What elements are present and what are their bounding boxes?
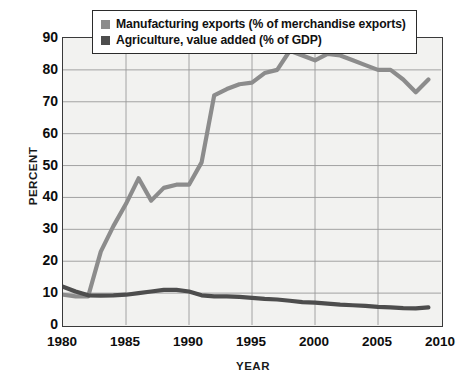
y-tick-label: 20 <box>24 252 58 268</box>
x-tick-label: 1990 <box>158 334 218 349</box>
legend-swatch-icon <box>101 36 110 45</box>
legend-label: Manufacturing exports (% of merchandise … <box>116 17 406 31</box>
chart-figure: PERCENT 9080706050403020100 198019851990… <box>0 0 459 386</box>
y-tick-label: 70 <box>24 93 58 109</box>
chart-legend: Manufacturing exports (% of merchandise … <box>92 10 417 54</box>
x-tick-label: 1980 <box>32 334 92 349</box>
y-tick-label: 80 <box>24 61 58 77</box>
plot-svg <box>63 38 441 325</box>
y-tick-label: 10 <box>24 284 58 300</box>
legend-item: Agriculture, value added (% of GDP) <box>101 32 406 48</box>
x-axis-title: YEAR <box>62 360 444 372</box>
legend-label: Agriculture, value added (% of GDP) <box>116 33 322 47</box>
legend-swatch-icon <box>101 20 110 29</box>
series-line-1 <box>63 51 428 297</box>
x-tick-label: 2000 <box>284 334 344 349</box>
y-tick-label: 40 <box>24 188 58 204</box>
series-line-2 <box>63 287 428 309</box>
y-tick-label: 50 <box>24 157 58 173</box>
y-tick-label: 60 <box>24 125 58 141</box>
x-tick-label: 2010 <box>410 334 459 349</box>
plot-area <box>62 37 443 327</box>
y-axis-tick-labels: 9080706050403020100 <box>20 0 58 386</box>
x-tick-label: 1985 <box>95 334 155 349</box>
x-tick-label: 2005 <box>347 334 407 349</box>
y-tick-label: 30 <box>24 220 58 236</box>
x-tick-label: 1995 <box>221 334 281 349</box>
x-axis-tick-labels: 1980198519901995200020052010 <box>0 334 459 356</box>
y-tick-label: 90 <box>24 29 58 45</box>
legend-item: Manufacturing exports (% of merchandise … <box>101 16 406 32</box>
y-tick-label: 0 <box>24 316 58 332</box>
